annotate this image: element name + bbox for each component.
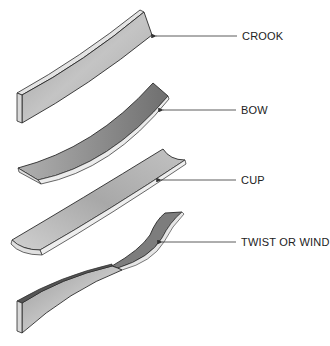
twist-label: TWIST OR WIND [241, 236, 330, 248]
crook-label: CROOK [242, 30, 283, 42]
cup-label: CUP [241, 174, 265, 186]
bow-label: BOW [241, 104, 268, 116]
